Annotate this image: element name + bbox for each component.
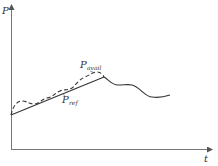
y-axis-label: P	[1, 5, 9, 16]
svg-text:ref: ref	[69, 99, 79, 107]
power-continuation-curve	[104, 77, 170, 97]
svg-text:P: P	[61, 94, 69, 105]
power-diagram: P t P avail P ref	[0, 0, 218, 166]
svg-text:P: P	[79, 59, 87, 70]
p-ref-label: P ref	[61, 93, 79, 107]
p-avail-curve	[11, 72, 104, 115]
p-avail-label: P avail	[79, 59, 101, 73]
x-axis-label: t	[204, 153, 209, 164]
svg-text:avail: avail	[87, 64, 101, 71]
p-ref-curve	[11, 77, 104, 115]
